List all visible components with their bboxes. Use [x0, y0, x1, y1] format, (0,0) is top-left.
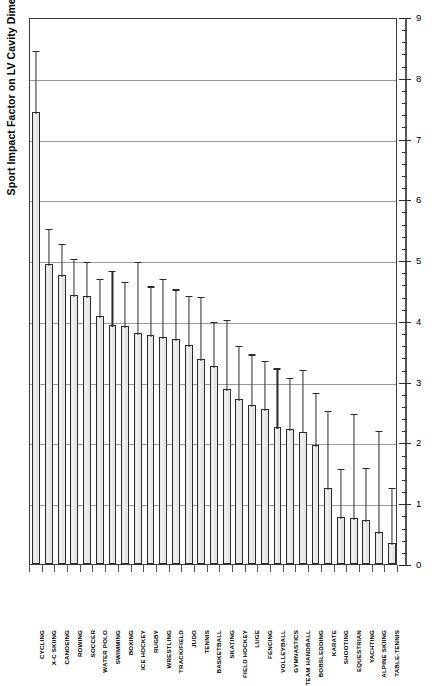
error-bar-cap — [122, 282, 129, 283]
x-axis-label: FIELD HOCKEY — [241, 630, 248, 678]
y-axis-minor-tick — [402, 407, 407, 408]
x-axis-label: VOLLEYBALL — [279, 630, 286, 673]
x-axis-label: BOBSLEDDING — [317, 630, 324, 677]
y-axis-minor-tick — [402, 468, 407, 469]
error-bar-line — [302, 370, 303, 433]
x-axis-tick — [270, 565, 271, 572]
x-axis-tick — [105, 565, 106, 572]
y-axis-minor-tick — [402, 285, 407, 286]
y-axis-minor-tick — [402, 176, 407, 177]
x-axis-tick — [118, 565, 119, 572]
x-axis-tick — [283, 565, 284, 572]
y-axis-minor-tick — [402, 334, 407, 335]
x-axis-tick — [334, 565, 335, 572]
x-axis-label: ROWING — [76, 630, 83, 657]
bar-group — [96, 19, 104, 564]
y-axis-tick-label: 0 — [416, 560, 421, 569]
bar-group — [299, 19, 307, 564]
y-axis-minor-tick — [402, 529, 407, 530]
x-axis-tick — [207, 565, 208, 572]
y-axis-tick-label: 6 — [416, 195, 421, 204]
x-axis-tick — [42, 565, 43, 572]
bar — [147, 335, 155, 564]
x-axis-category-labels: CYCLINGX-C SKIINGCANOEINGROWINGSOCCERWAT… — [29, 572, 397, 632]
y-axis-minor-tick — [402, 237, 407, 238]
error-bar-line — [290, 378, 291, 431]
bar — [197, 359, 205, 564]
x-axis-label: FENCING — [266, 630, 273, 659]
error-bar-cap — [223, 320, 230, 321]
y-axis-tick — [399, 565, 411, 566]
bar-group — [70, 19, 78, 564]
error-bar-line — [213, 322, 214, 369]
bar-group — [286, 19, 294, 564]
bar — [248, 405, 256, 564]
x-axis-tick — [29, 565, 30, 572]
error-bar-line — [87, 262, 88, 298]
y-axis-minor-tick — [402, 54, 407, 55]
bar-group — [159, 19, 167, 564]
x-axis-tick — [257, 565, 258, 572]
bar — [83, 296, 91, 564]
y-axis-minor-tick — [402, 553, 407, 554]
error-bar-cap — [147, 286, 154, 287]
bar — [362, 520, 370, 564]
bar — [58, 275, 66, 564]
x-axis-label: ICE HOCKEY — [139, 630, 146, 670]
bar — [388, 543, 396, 564]
y-axis-minor-tick — [402, 212, 407, 213]
error-bar-cap — [160, 279, 167, 280]
error-bar-cap — [109, 271, 116, 272]
y-axis-tick-label: 1 — [416, 499, 421, 508]
x-axis-tick — [92, 565, 93, 572]
x-axis-tick — [346, 565, 347, 572]
x-axis-tick — [80, 565, 81, 572]
bar-series — [30, 19, 396, 564]
x-axis-tick — [143, 565, 144, 572]
x-axis-label: WATER POLO — [101, 630, 108, 673]
bar-group — [350, 19, 358, 564]
x-axis-label: WRESTLING — [165, 630, 172, 668]
bar-group — [147, 19, 155, 564]
error-bar-line — [378, 431, 379, 534]
x-axis-label: CYCLING — [38, 630, 45, 659]
error-bar-cap — [325, 411, 332, 412]
error-bar-line — [137, 262, 138, 335]
bar-group — [223, 19, 231, 564]
error-bar-line — [150, 286, 151, 336]
bar — [299, 432, 307, 564]
y-axis-minor-tick — [402, 91, 407, 92]
error-bar-cap — [33, 51, 40, 52]
error-bar-line — [252, 354, 253, 406]
y-axis-tick-label: 9 — [416, 13, 421, 22]
bar-group — [312, 19, 320, 564]
y-axis-minor-tick — [402, 310, 407, 311]
error-bar-line — [239, 346, 240, 401]
bar-group — [248, 19, 256, 564]
error-bar-line — [188, 296, 189, 348]
error-bar-line — [353, 414, 354, 520]
error-bar-cap — [337, 469, 344, 470]
bar-group — [185, 19, 193, 564]
bar — [159, 337, 167, 564]
x-axis-label: SOCCER — [89, 630, 96, 657]
x-axis-label: TABLE-TENNIS — [393, 630, 400, 677]
x-axis-label: RUGBY — [152, 630, 159, 653]
bar-group — [121, 19, 129, 564]
x-axis-label: YACHTING — [368, 630, 375, 663]
bar — [185, 345, 193, 564]
error-bar-line — [264, 361, 265, 411]
x-axis-tick — [359, 565, 360, 572]
y-axis-minor-tick — [402, 492, 407, 493]
y-axis-minor-tick — [402, 103, 407, 104]
error-bar-line — [163, 279, 164, 339]
error-bar-cap — [96, 279, 103, 280]
x-axis-tick — [372, 565, 373, 572]
x-axis-tick — [321, 565, 322, 572]
error-bar-cap — [363, 468, 370, 469]
error-bar-line — [74, 259, 75, 297]
y-axis-tick — [399, 140, 411, 141]
x-axis-tick — [245, 565, 246, 572]
bar-group — [337, 19, 345, 564]
bar — [45, 264, 53, 564]
